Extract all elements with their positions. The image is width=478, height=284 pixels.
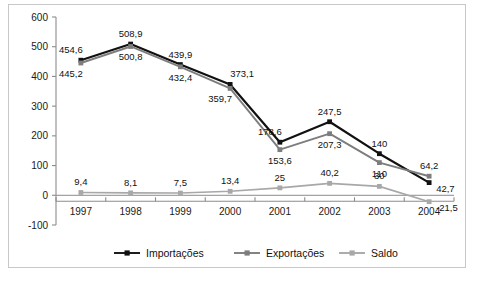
legend-marker <box>125 250 130 255</box>
data-value-label: 247,5 <box>318 106 342 117</box>
y-tick-label: 100 <box>31 160 48 171</box>
data-point-marker <box>377 160 382 165</box>
data-point-marker <box>277 140 282 145</box>
data-point-marker <box>377 184 382 189</box>
x-tick-label: 2003 <box>368 206 391 217</box>
data-value-label: 178,6 <box>258 126 282 137</box>
data-value-label: 207,3 <box>318 139 342 150</box>
data-point-marker <box>228 189 233 194</box>
data-point-marker <box>427 174 432 179</box>
data-value-label: 42,7 <box>436 183 455 194</box>
data-value-label: 8,1 <box>124 177 137 188</box>
chart-frame: -1000100200300400500600 1997199819992000… <box>8 4 466 268</box>
data-point-marker <box>128 44 133 49</box>
line-chart: -1000100200300400500600 1997199819992000… <box>9 5 467 269</box>
data-point-marker <box>327 131 332 136</box>
data-value-label: 9,4 <box>74 176 87 187</box>
y-tick-label: 300 <box>31 101 48 112</box>
y-tick-label: 400 <box>31 71 48 82</box>
data-point-marker <box>78 190 83 195</box>
x-tick-label: 2002 <box>319 206 342 217</box>
data-point-marker <box>327 181 332 186</box>
data-point-marker <box>277 185 282 190</box>
y-tick-label: 600 <box>31 12 48 23</box>
y-tick-label: 200 <box>31 130 48 141</box>
x-tick-label: 2000 <box>219 206 242 217</box>
legend-item-label[interactable]: Exportações <box>266 247 324 259</box>
data-point-marker <box>178 191 183 196</box>
legend-item-label[interactable]: Importações <box>146 247 204 259</box>
data-value-label: 25 <box>275 172 286 183</box>
legend-marker <box>245 250 250 255</box>
data-point-marker <box>78 61 83 66</box>
data-point-marker <box>228 86 233 91</box>
data-value-label: 359,7 <box>208 93 232 104</box>
data-point-marker <box>377 151 382 156</box>
data-value-label: 445,2 <box>59 68 83 79</box>
legend-marker <box>350 250 355 255</box>
data-value-label: 373,1 <box>230 68 254 79</box>
data-point-marker <box>128 190 133 195</box>
series-line <box>81 46 429 176</box>
data-point-marker <box>327 119 332 124</box>
data-labels-layer: 454,6508,9439,9373,1178,6247,514042,7445… <box>59 28 458 213</box>
data-point-marker <box>178 64 183 69</box>
data-point-marker <box>427 180 432 185</box>
data-point-marker <box>427 199 432 204</box>
x-tick-label: 1998 <box>120 206 143 217</box>
data-value-label: 13,4 <box>221 175 240 186</box>
y-tick-label: 500 <box>31 41 48 52</box>
x-axis: 19971998199920002001200220032004 <box>56 195 454 217</box>
data-value-label: 30 <box>374 170 385 181</box>
x-tick-label: 1999 <box>169 206 192 217</box>
data-value-label: 500,8 <box>119 51 143 62</box>
data-value-label: 153,6 <box>268 155 292 166</box>
data-value-label: 439,9 <box>168 49 192 60</box>
data-value-label: 454,6 <box>59 44 83 55</box>
data-value-label: 40,2 <box>320 167 339 178</box>
data-value-label: -21,5 <box>436 202 458 213</box>
y-tick-label: 0 <box>42 190 48 201</box>
data-point-marker <box>277 147 282 152</box>
x-tick-label: 1997 <box>70 206 93 217</box>
y-tick-label: -100 <box>28 220 48 231</box>
data-value-label: 140 <box>371 138 387 149</box>
x-tick-label: 2001 <box>269 206 292 217</box>
data-value-label: 7,5 <box>174 177 187 188</box>
data-value-label: 508,9 <box>119 28 143 39</box>
data-value-label: 64,2 <box>420 160 439 171</box>
legend-item-label[interactable]: Saldo <box>371 247 398 259</box>
data-value-label: 432,4 <box>168 72 192 83</box>
y-axis: -1000100200300400500600 <box>28 12 56 231</box>
chart-legend: ImportaçõesExportaçõesSaldo <box>114 247 398 259</box>
